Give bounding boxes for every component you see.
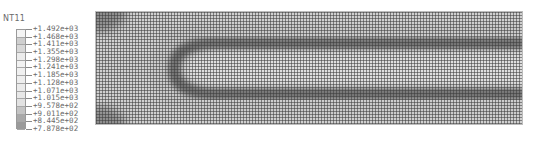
legend-swatch	[17, 61, 25, 69]
legend-title: NT11	[3, 14, 25, 23]
legend-tick	[26, 129, 32, 130]
legend-tick	[26, 29, 32, 30]
legend-swatch	[17, 76, 25, 84]
mesh-viewport[interactable]	[95, 11, 523, 125]
legend-swatch	[17, 99, 25, 107]
legend-tick	[26, 91, 32, 92]
legend-swatch	[17, 107, 25, 115]
legend-tick	[26, 67, 32, 68]
legend-swatch	[17, 45, 25, 53]
legend-swatch	[17, 122, 25, 130]
mesh-grid	[96, 12, 522, 124]
legend-swatch	[17, 115, 25, 123]
legend-tick	[26, 60, 32, 61]
legend-tick	[26, 37, 32, 38]
legend-swatch	[17, 84, 25, 92]
legend-tick	[26, 75, 32, 76]
legend-swatch	[17, 38, 25, 46]
legend-swatch	[17, 68, 25, 76]
legend-color-bar	[16, 29, 26, 129]
legend-value: +7.878e+02	[33, 125, 78, 133]
legend-swatch	[17, 53, 25, 61]
legend-swatch	[17, 92, 25, 100]
legend-tick	[26, 114, 32, 115]
legend-tick	[26, 44, 32, 45]
legend-swatch	[17, 30, 25, 38]
legend-tick	[26, 83, 32, 84]
legend-tick	[26, 52, 32, 53]
legend-tick	[26, 121, 32, 122]
legend-tick	[26, 106, 32, 107]
legend-tick	[26, 98, 32, 99]
